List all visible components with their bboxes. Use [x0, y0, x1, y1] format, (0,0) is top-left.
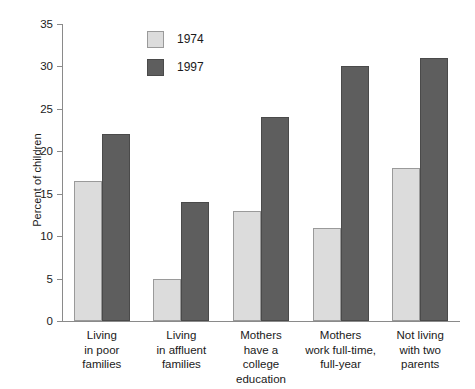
- bar-1997-2: [261, 117, 289, 321]
- bar-1974-0: [74, 181, 102, 321]
- y-tick-mark: [57, 279, 62, 280]
- y-axis-title: Percent of children: [30, 30, 44, 330]
- bar-1997-3: [341, 66, 369, 321]
- y-tick-mark: [57, 321, 62, 322]
- bar-1974-4: [392, 168, 420, 321]
- y-tick-mark: [57, 236, 62, 237]
- y-tick-mark: [57, 66, 62, 67]
- y-axis-line: [62, 24, 63, 322]
- light-gray-swatch-icon: [147, 31, 164, 48]
- legend-label: 1974: [177, 32, 204, 46]
- y-tick-label: 25: [40, 103, 53, 115]
- y-tick-mark: [57, 24, 62, 25]
- bar-1997-4: [420, 58, 448, 321]
- x-axis-line: [62, 321, 460, 322]
- category-label-0: Living in poor families: [62, 328, 142, 372]
- y-tick-label: 30: [40, 60, 53, 72]
- y-tick-label: 15: [40, 188, 53, 200]
- y-tick-label: 5: [47, 273, 53, 285]
- legend-item-1974: 1974: [147, 25, 267, 53]
- category-label-3: Mothers work full-time, full-year: [301, 328, 381, 372]
- y-tick-mark: [57, 151, 62, 152]
- y-tick-label: 20: [40, 145, 53, 157]
- bar-1974-2: [233, 211, 261, 321]
- bar-chart: Percent of children 05101520253035 Livin…: [0, 0, 475, 389]
- legend-item-1997: 1997: [147, 53, 267, 81]
- category-label-1: Living in affluent families: [142, 328, 222, 372]
- y-tick-mark: [57, 194, 62, 195]
- y-tick-label: 0: [47, 315, 53, 327]
- bar-1997-1: [181, 202, 209, 321]
- bar-1974-1: [153, 279, 181, 321]
- legend-label: 1997: [177, 60, 204, 74]
- y-tick-label: 10: [40, 230, 53, 242]
- y-tick-mark: [57, 109, 62, 110]
- legend: 1974 1997: [147, 25, 267, 81]
- dark-gray-swatch-icon: [147, 59, 164, 76]
- bar-1997-0: [102, 134, 130, 321]
- category-label-4: Not living with two parents: [380, 328, 460, 372]
- y-tick-label: 35: [40, 18, 53, 30]
- category-label-2: Mothers have a college education: [221, 328, 301, 386]
- bar-1974-3: [313, 228, 341, 321]
